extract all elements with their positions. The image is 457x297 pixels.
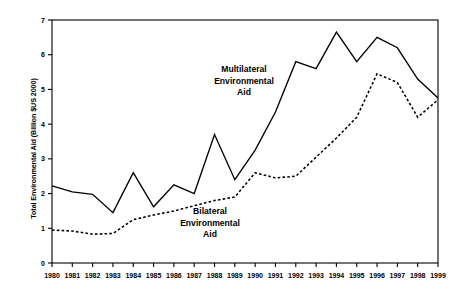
x-tick-label: 1997 bbox=[390, 272, 406, 279]
x-tick-label: 1993 bbox=[308, 272, 324, 279]
y-tick-label: 4 bbox=[41, 121, 45, 128]
y-tick-label: 1 bbox=[41, 225, 45, 232]
x-tick-label: 1990 bbox=[247, 272, 263, 279]
x-tick-label: 1985 bbox=[146, 272, 162, 279]
chart-annotations: MultilateralEnvironmentalAidBilateralEnv… bbox=[180, 64, 274, 239]
x-tick-label: 1989 bbox=[227, 272, 243, 279]
x-tick-label: 1994 bbox=[329, 272, 345, 279]
y-tick-label: 7 bbox=[41, 17, 45, 24]
multilateral-label: Aid bbox=[237, 87, 251, 97]
multilateral-label: Multilateral bbox=[221, 64, 266, 74]
x-tick-label: 1986 bbox=[166, 272, 182, 279]
x-tick-label: 1987 bbox=[186, 272, 202, 279]
x-tick-label: 1999 bbox=[430, 272, 446, 279]
x-tick-label: 1981 bbox=[65, 272, 81, 279]
plot-frame bbox=[52, 20, 438, 263]
x-tick-label: 1992 bbox=[288, 272, 304, 279]
y-axis-ticks: 01234567 bbox=[41, 17, 52, 267]
plot-area-wrapper: 01234567 1980198119821983198419851986198… bbox=[0, 0, 457, 297]
x-tick-label: 1996 bbox=[369, 272, 385, 279]
data-series-group bbox=[52, 32, 438, 234]
y-tick-label: 0 bbox=[41, 260, 45, 267]
y-tick-label: 6 bbox=[41, 51, 45, 58]
x-tick-label: 1984 bbox=[125, 272, 141, 279]
x-tick-label: 1983 bbox=[105, 272, 121, 279]
x-tick-label: 1998 bbox=[410, 272, 426, 279]
chart-figure: Total Environmental Aid (Billion $US 200… bbox=[0, 0, 457, 297]
y-tick-label: 5 bbox=[41, 86, 45, 93]
multilateral-label: Environmental bbox=[214, 76, 274, 86]
x-tick-label: 1995 bbox=[349, 272, 365, 279]
y-tick-label: 3 bbox=[41, 155, 45, 162]
x-axis-ticks: 1980198119821983198419851986198719881989… bbox=[44, 263, 446, 279]
line-chart-svg: 01234567 1980198119821983198419851986198… bbox=[0, 0, 457, 297]
x-tick-label: 1991 bbox=[268, 272, 284, 279]
bilateral-label: Environmental bbox=[180, 218, 240, 228]
bilateral-label: Bilateral bbox=[193, 206, 227, 216]
x-tick-label: 1980 bbox=[44, 272, 60, 279]
y-tick-label: 2 bbox=[41, 190, 45, 197]
bilateral-label: Aid bbox=[203, 229, 217, 239]
plot-border bbox=[52, 20, 438, 263]
series-multilateral-line bbox=[52, 32, 438, 213]
x-tick-label: 1988 bbox=[207, 272, 223, 279]
x-tick-label: 1982 bbox=[85, 272, 101, 279]
